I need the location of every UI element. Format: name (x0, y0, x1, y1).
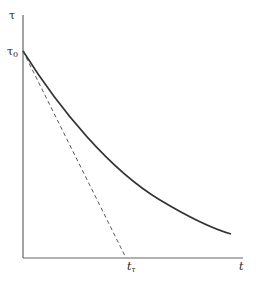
tau0-label: τ0 (7, 45, 18, 59)
tangent-line (23, 51, 126, 258)
decay-diagram: τ τ0 tτ t (0, 0, 256, 286)
decay-curve (23, 51, 231, 234)
y-axis-label: τ (9, 9, 15, 22)
t-tau-label: tτ (127, 260, 135, 274)
x-axis-label: t (239, 260, 244, 273)
